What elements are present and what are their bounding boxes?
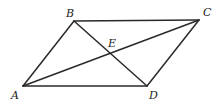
side-bc [74,20,199,21]
label-d: D [148,89,158,102]
label-b: B [65,7,74,20]
label-e: E [107,37,116,50]
label-c: C [203,6,212,19]
segments [23,20,199,86]
diagonal-bd [74,21,147,86]
parallelogram-diagram: A B C D E [0,0,215,107]
label-a: A [10,89,19,102]
